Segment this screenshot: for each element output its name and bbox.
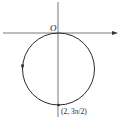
diagram-svg: O (2, 3π/2) [0, 0, 119, 119]
polar-circle [23, 33, 95, 105]
point-marker [57, 104, 60, 107]
polar-diagram: O (2, 3π/2) [0, 0, 119, 119]
direction-arrow-icon [21, 65, 24, 71]
axis-arrow-icon [112, 31, 118, 35]
origin-label: O [50, 23, 57, 33]
point-label: (2, 3π/2) [61, 107, 87, 116]
